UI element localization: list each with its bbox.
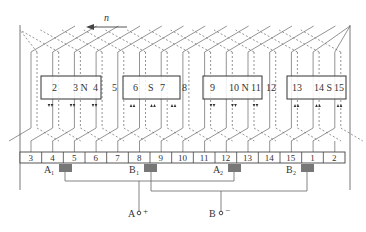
commutator-segment-label: 15 <box>286 153 296 163</box>
slot-label: 11 <box>251 82 261 93</box>
current-up-arrow-icon <box>318 104 321 107</box>
commutator-segment-label: 2 <box>332 153 337 163</box>
slot-label: 4 <box>93 82 98 93</box>
arrow-left-icon <box>86 24 94 30</box>
pole-box-n: 23 N4 <box>41 76 101 107</box>
brush-a1: A1 <box>44 164 72 176</box>
terminal-b-label: B <box>209 208 216 219</box>
svg-text:B: B <box>129 164 136 175</box>
current-down-arrow-icon <box>234 104 237 107</box>
pole-box-s: 1314 S15 <box>287 76 346 107</box>
slot-label: 6 <box>133 82 138 93</box>
current-down-arrow-icon <box>95 104 98 107</box>
slot-label: 14 S <box>314 82 332 93</box>
current-up-arrow-icon <box>294 104 297 107</box>
gap-slot-label: 12 <box>266 82 276 93</box>
slot-label: 10 N <box>229 82 249 93</box>
terminal-a-polarity: + <box>143 206 148 216</box>
slot-label: 3 N <box>73 82 88 93</box>
winding-diagram: n 23 N46S7910 N111314 S155812 3456789101… <box>0 0 366 232</box>
current-up-arrow-icon <box>174 104 177 107</box>
terminal-a-label: A <box>128 208 136 219</box>
commutator-segment-label: 6 <box>94 153 99 163</box>
pole-boxes: 23 N46S7910 N111314 S155812 <box>41 76 346 107</box>
current-up-arrow-icon <box>130 104 133 107</box>
slot-label: S <box>148 82 154 93</box>
current-up-arrow-icon <box>150 104 153 107</box>
commutator-segment-label: 14 <box>265 153 275 163</box>
commutator-segment-label: 8 <box>137 153 142 163</box>
gap-slot-label: 5 <box>112 82 117 93</box>
commutator-segment-label: 11 <box>200 153 209 163</box>
commutator-segment-label: 5 <box>72 153 77 163</box>
terminal-a-connector-icon <box>137 211 141 215</box>
brush-b2: B2 <box>286 164 314 176</box>
pole-box-s: 6S7 <box>123 76 180 107</box>
current-up-arrow-icon <box>171 104 174 107</box>
rotation-label: n <box>104 12 109 23</box>
terminal-b-polarity: − <box>225 205 230 215</box>
terminal-b: B − <box>209 205 230 219</box>
terminal-b-connector-icon <box>219 211 223 215</box>
commutator: 345678910111213141512 <box>20 152 345 163</box>
commutator-segment-label: 3 <box>29 153 34 163</box>
brushes: A1B1A2B2 <box>44 164 314 176</box>
current-down-arrow-icon <box>213 104 216 107</box>
commutator-segment-label: 7 <box>115 153 120 163</box>
terminal-a: A + <box>128 206 148 219</box>
brush-a2: A2 <box>213 164 241 176</box>
svg-text:2: 2 <box>220 170 223 176</box>
svg-text:B: B <box>286 164 293 175</box>
svg-text:1: 1 <box>51 170 54 176</box>
gap-slot-label: 8 <box>182 82 187 93</box>
current-down-arrow-icon <box>48 104 51 107</box>
rotation-arrow: n <box>86 12 127 30</box>
brush-b1: B1 <box>129 164 157 176</box>
commutator-segment-label: 10 <box>178 153 188 163</box>
commutator-segment-label: 4 <box>50 153 55 163</box>
svg-text:2: 2 <box>293 170 296 176</box>
commutator-segment-label: 1 <box>310 153 315 163</box>
pole-box-n: 910 N11 <box>203 76 262 107</box>
slot-label: 15 <box>334 82 344 93</box>
commutator-segment-label: 12 <box>221 153 230 163</box>
terminal-wiring <box>65 172 307 212</box>
current-up-arrow-icon <box>153 104 156 107</box>
current-down-arrow-icon <box>210 104 213 107</box>
current-down-arrow-icon <box>92 104 95 107</box>
slot-label: 9 <box>210 82 215 93</box>
commutator-segment-label: 9 <box>159 153 164 163</box>
current-down-arrow-icon <box>253 104 256 107</box>
commutator-segment-label: 13 <box>243 153 253 163</box>
current-down-arrow-icon <box>70 104 73 107</box>
svg-text:1: 1 <box>136 170 139 176</box>
slot-label: 13 <box>292 82 302 93</box>
current-down-arrow-icon <box>256 104 259 107</box>
current-down-arrow-icon <box>73 104 76 107</box>
current-up-arrow-icon <box>133 104 136 107</box>
current-down-arrow-icon <box>231 104 234 107</box>
slot-label: 7 <box>160 82 165 93</box>
current-up-arrow-icon <box>337 104 340 107</box>
current-up-arrow-icon <box>340 104 343 107</box>
slot-label: 2 <box>52 82 57 93</box>
current-up-arrow-icon <box>315 104 318 107</box>
